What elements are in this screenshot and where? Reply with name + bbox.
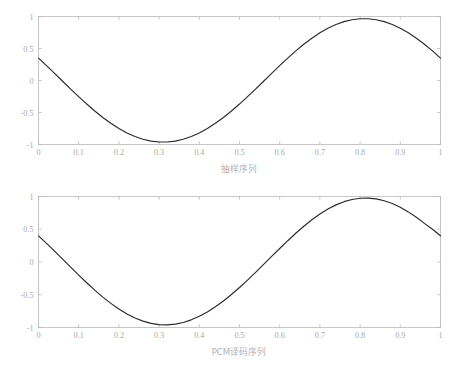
y-tick-label: 0	[29, 77, 33, 86]
x-tick-label: 0.9	[395, 331, 405, 340]
x-ticks-top	[39, 17, 441, 145]
x-tick-label: 0.8	[355, 331, 365, 340]
y-ticks-top	[39, 17, 441, 145]
x-tick-labels-bottom: 00.10.20.30.40.50.60.70.80.91	[36, 331, 442, 340]
y-tick-label: -0.5	[21, 291, 34, 300]
x-tick-label: 1	[438, 331, 442, 340]
x-tick-label: 1	[438, 148, 442, 157]
x-tick-label: 0	[36, 148, 40, 157]
y-tick-label: -1	[27, 324, 34, 333]
y-tick-label: -1	[27, 141, 34, 150]
x-tick-label: 0.5	[234, 331, 244, 340]
sampling-sequence-plot: 00.10.20.30.40.50.60.70.80.91 -1-0.500.5…	[0, 0, 455, 182]
pcm-decoded-plot: 00.10.20.30.40.50.60.70.80.91 -1-0.500.5…	[0, 182, 455, 365]
sampling-curve	[39, 19, 441, 142]
x-tick-label: 0.4	[194, 331, 204, 340]
x-tick-label: 0.6	[275, 148, 285, 157]
pcm-curve	[39, 198, 441, 325]
x-tick-label: 0.3	[154, 331, 164, 340]
axes-frame-top	[39, 17, 441, 145]
y-tick-label: -0.5	[21, 109, 34, 118]
x-tick-label: 0.5	[234, 148, 244, 157]
y-ticks-bottom	[39, 197, 441, 328]
x-tick-label: 0.3	[154, 148, 164, 157]
x-ticks-bottom	[39, 197, 441, 328]
y-tick-label: 0.5	[23, 225, 33, 234]
figure-container: 00.10.20.30.40.50.60.70.80.91 -1-0.500.5…	[0, 0, 455, 365]
chart-panel-pcm: 00.10.20.30.40.50.60.70.80.91 -1-0.500.5…	[0, 182, 455, 365]
y-tick-label: 1	[29, 13, 33, 22]
y-tick-label: 1	[29, 193, 33, 202]
axes-frame-bottom	[39, 197, 441, 328]
x-tick-label: 0.8	[355, 148, 365, 157]
y-tick-labels-bottom: -1-0.500.51	[21, 193, 34, 333]
x-tick-label: 0	[36, 331, 40, 340]
x-axis-title-top: 抽样序列	[221, 163, 257, 174]
x-tick-label: 0.2	[114, 148, 124, 157]
y-tick-label: 0.5	[23, 45, 33, 54]
x-tick-label: 0.9	[395, 148, 405, 157]
y-tick-labels-top: -1-0.500.51	[21, 13, 34, 150]
x-tick-label: 0.1	[74, 331, 84, 340]
x-tick-label: 0.4	[194, 148, 204, 157]
x-tick-label: 0.7	[315, 331, 325, 340]
x-tick-label: 0.6	[275, 331, 285, 340]
x-tick-label: 0.2	[114, 331, 124, 340]
x-axis-title-bottom: PCM译码序列	[212, 346, 267, 357]
x-tick-label: 0.7	[315, 148, 325, 157]
x-tick-labels-top: 00.10.20.30.40.50.60.70.80.91	[36, 148, 442, 157]
chart-panel-sampling: 00.10.20.30.40.50.60.70.80.91 -1-0.500.5…	[0, 0, 455, 182]
y-tick-label: 0	[29, 258, 33, 267]
x-tick-label: 0.1	[74, 148, 84, 157]
